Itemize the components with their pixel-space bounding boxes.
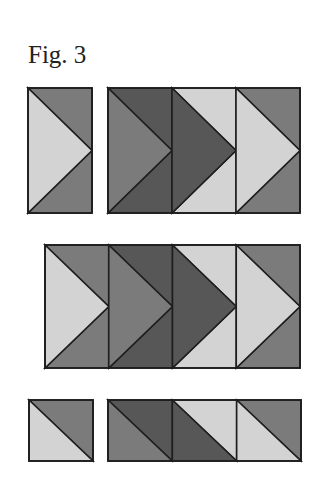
flying-geese-unit bbox=[236, 245, 300, 368]
row-2-block-1 bbox=[45, 245, 300, 368]
flying-geese-unit bbox=[172, 88, 236, 213]
row-3 bbox=[29, 400, 301, 461]
row-1-block-2 bbox=[108, 88, 300, 213]
flying-geese-unit bbox=[45, 245, 109, 368]
row-1 bbox=[28, 88, 300, 213]
half-square-triangle-unit bbox=[172, 400, 236, 461]
row-2 bbox=[45, 245, 300, 368]
flying-geese-unit bbox=[28, 88, 92, 213]
half-square-triangle-unit bbox=[108, 400, 172, 461]
row-1-block-1 bbox=[28, 88, 92, 213]
half-square-triangle-unit bbox=[237, 400, 301, 461]
flying-geese-unit bbox=[109, 245, 173, 368]
row-3-block-2 bbox=[108, 400, 301, 461]
quilt-block-diagram bbox=[0, 0, 330, 490]
flying-geese-unit bbox=[236, 88, 300, 213]
flying-geese-unit bbox=[108, 88, 172, 213]
flying-geese-unit bbox=[173, 245, 237, 368]
row-3-block-1 bbox=[29, 400, 93, 461]
half-square-triangle-unit bbox=[29, 400, 93, 461]
